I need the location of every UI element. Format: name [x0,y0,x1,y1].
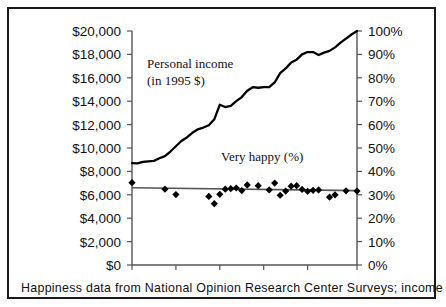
scatter-point [293,182,300,189]
left-axis-ticks: $0$2,000$4,000$6,000$8,000$10,000$12,000… [72,24,132,273]
left-tick-label: $0 [106,258,121,273]
right-tick-label: 40% [368,164,395,179]
caption-area: Happiness data from National Opinion Res… [9,276,434,299]
scatter-point [271,180,278,187]
scatter-point [342,187,349,194]
left-tick-label: $6,000 [80,188,121,203]
scatter-point [216,191,223,198]
scatter-point [282,187,289,194]
right-tick-label: 70% [368,94,395,109]
right-tick-label: 20% [368,211,395,226]
scatter-point [304,188,311,195]
left-tick-label: $14,000 [72,94,121,109]
scatter-point [227,185,234,192]
left-tick-label: $10,000 [72,141,121,156]
scatter-point [277,192,284,199]
right-tick-label: 100% [368,24,403,39]
scatter-point [205,193,212,200]
x-tick-label: 1981 [251,273,277,274]
right-tick-label: 90% [368,47,395,62]
right-tick-label: 80% [368,71,395,86]
left-tick-label: $2,000 [80,235,121,250]
scatter-point [128,179,135,186]
chart-figure: $0$2,000$4,000$6,000$8,000$10,000$12,000… [9,9,434,274]
scatter-point [172,191,179,198]
personal-income-line [132,31,357,163]
x-tick-label: 1957 [119,273,145,274]
left-tick-label: $8,000 [80,164,121,179]
figure-caption: Happiness data from National Opinion Res… [9,281,443,295]
right-tick-label: 10% [368,235,395,250]
x-tick-label: 1965 [163,273,189,274]
x-axis-ticks: 195719651973198119891998 [119,265,370,274]
right-tick-label: 60% [368,118,395,133]
left-tick-label: $20,000 [72,24,121,39]
scatter-point [353,187,360,194]
very-happy-annotation: Very happy (%) [221,149,303,164]
scatter-point [266,186,273,193]
left-tick-label: $16,000 [72,71,121,86]
right-axis-ticks: 0%10%20%30%40%50%60%70%80%90%100% [357,24,403,273]
left-tick-label: $18,000 [72,47,121,62]
right-tick-label: 50% [368,141,395,156]
scatter-point [315,186,322,193]
very-happy-scatter-points [128,179,360,207]
x-tick-label: 1989 [295,273,321,274]
x-tick-label: 1998 [344,273,370,274]
left-tick-label: $12,000 [72,118,121,133]
x-tick-label: 1973 [207,273,233,274]
personal-income-annotation-line2: (in 1995 $) [147,73,205,88]
personal-income-annotation-line1: Personal income [147,56,234,71]
left-tick-label: $4,000 [80,211,121,226]
right-tick-label: 0% [368,258,388,273]
scatter-point [299,186,306,193]
scatter-point [244,181,251,188]
figure-frame: $0$2,000$4,000$6,000$8,000$10,000$12,000… [7,7,436,299]
scatter-point [161,186,168,193]
scatter-point [255,182,262,189]
right-tick-label: 30% [368,188,395,203]
scatter-point [211,200,218,207]
dual-axis-chart: $0$2,000$4,000$6,000$8,000$10,000$12,000… [9,9,434,274]
